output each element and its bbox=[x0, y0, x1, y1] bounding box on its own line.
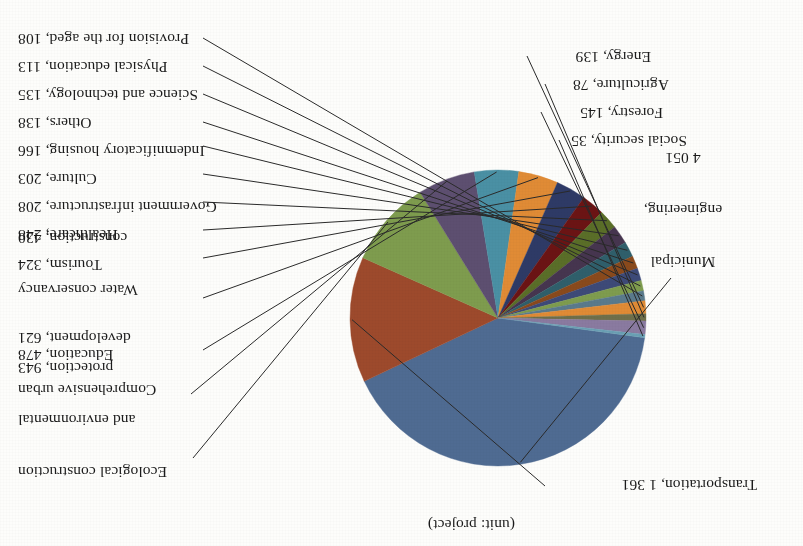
slice-label-social-security: Social security, 35 bbox=[571, 133, 687, 150]
slice-label-transportation: Transportation, 1 361 bbox=[622, 477, 757, 494]
slice-label-culture: Culture, 203 bbox=[18, 171, 97, 188]
slice-label-energy: Energy, 139 bbox=[575, 49, 651, 66]
slice-label-agriculture: Agriculture, 78 bbox=[573, 77, 669, 94]
slice-label-tourism: Tourism, 324 bbox=[18, 257, 102, 274]
slice-label-physical-education: Physical education, 113 bbox=[18, 59, 167, 76]
pie-chart-figure: (unit: project) Ecological construction … bbox=[0, 0, 803, 546]
slice-label-education: Education, 478 bbox=[18, 347, 113, 364]
slice-label-healthcare: Healthcare, 248 bbox=[18, 227, 118, 244]
slice-label-provision-for-aged: Provision for the aged, 108 bbox=[18, 31, 189, 48]
slice-label-others: Others, 138 bbox=[18, 115, 91, 132]
slice-label-forestry: Forestry, 145 bbox=[580, 105, 663, 122]
unit-note: (unit: project) bbox=[428, 517, 515, 534]
slice-label-indemnificatory-housing: Indemnificatory housing, 166 bbox=[18, 143, 205, 160]
slice-label-science-technology: Science and technology, 135 bbox=[18, 87, 198, 104]
slice-label-government-infrastructure: Government infrastructure, 208 bbox=[18, 199, 217, 216]
